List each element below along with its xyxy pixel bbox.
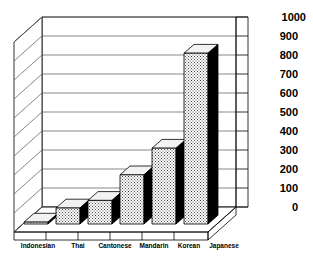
cat-label-thai: Thai: [71, 242, 85, 249]
y-tick-800: 800: [280, 49, 298, 61]
bar-korean[interactable]: [152, 139, 186, 224]
chart-container: 1000 900 800 700 600 500 400 300 200 100…: [0, 0, 313, 265]
y-tick-labels: 1000 900 800 700 600 500 400 300 200 100…: [280, 11, 306, 213]
bar-mandarin[interactable]: [120, 166, 154, 224]
y-axis: [236, 17, 248, 207]
y-tick-1000: 1000: [282, 11, 306, 23]
x-category-labels: Indonesian Thai Cantonese Mandarin Korea…: [21, 242, 239, 250]
cat-label-indonesian: Indonesian: [21, 242, 55, 249]
bar-cantonese[interactable]: [88, 192, 122, 224]
cat-label-korean: Korean: [178, 242, 200, 249]
cat-label-japanese: Japanese: [209, 242, 239, 250]
y-tick-900: 900: [280, 30, 298, 42]
y-tick-700: 700: [280, 68, 298, 80]
y-tick-300: 300: [280, 144, 298, 156]
y-tick-200: 200: [280, 163, 298, 175]
y-tick-100: 100: [280, 182, 298, 194]
y-tick-600: 600: [280, 87, 298, 99]
cat-label-cantonese: Cantonese: [98, 242, 132, 249]
bar-japanese[interactable]: [184, 44, 218, 224]
bar-chart-3d: 1000 900 800 700 600 500 400 300 200 100…: [0, 0, 313, 265]
y-tick-0: 0: [292, 201, 298, 213]
y-tick-500: 500: [280, 106, 298, 118]
cat-label-mandarin: Mandarin: [140, 242, 169, 249]
y-tick-400: 400: [280, 125, 298, 137]
